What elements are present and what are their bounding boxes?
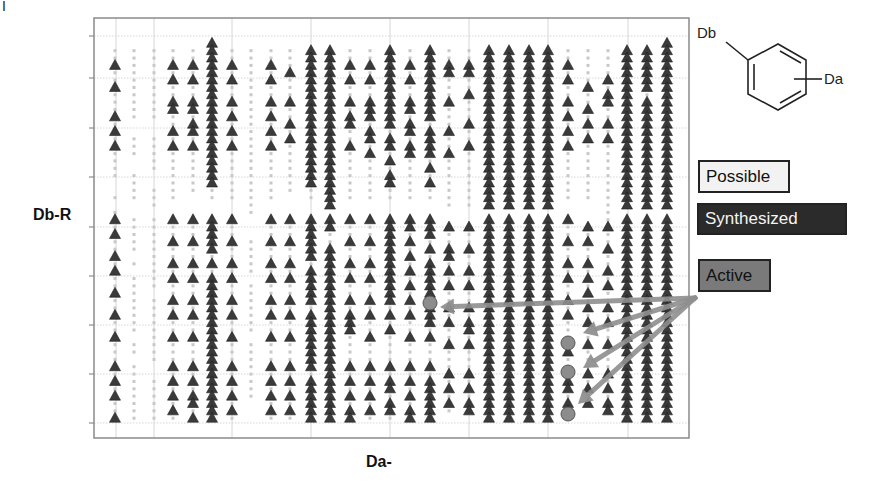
legend-possible-label: Possible: [706, 167, 770, 187]
legend-active-label: Active: [706, 266, 752, 286]
scatter-plot: [0, 0, 877, 485]
x-axis-label: Da-: [366, 453, 392, 471]
substituent-a-label: Da: [824, 70, 843, 87]
legend-possible: Possible: [698, 160, 790, 193]
legend-active: Active: [698, 259, 771, 292]
y-axis-label: Db-R: [33, 206, 71, 224]
active-points: [423, 296, 575, 421]
legend-synthesized-label: Synthesized: [705, 209, 798, 229]
benzene-structure-icon: [726, 42, 822, 110]
substituent-b-label: Db: [697, 24, 716, 41]
legend-synthesized: Synthesized: [697, 203, 847, 235]
